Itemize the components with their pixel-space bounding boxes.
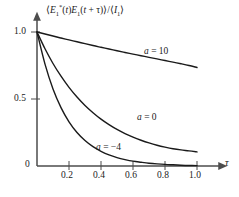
plot-canvas bbox=[0, 0, 239, 197]
x-tick-label-08: 0.8 bbox=[157, 171, 169, 181]
x-axis-label: τ bbox=[225, 158, 229, 168]
x-tick-label-10: 1.0 bbox=[189, 171, 201, 181]
curve-a-0 bbox=[37, 32, 197, 152]
x-tick-label-02: 0.2 bbox=[61, 171, 73, 181]
x-tick-label-04: 0.4 bbox=[93, 171, 105, 181]
curve-annotation-a-minus-4: a = −4 bbox=[96, 143, 121, 153]
y-tick-label-0: 0 bbox=[25, 160, 30, 170]
y-axis-label: ⟨E1*(t)E1(t + τ)⟩/⟨I1⟩ bbox=[46, 4, 124, 18]
curve-annotation-a-10: a = 10 bbox=[144, 47, 168, 57]
figure-container: ⟨E1*(t)E1(t + τ)⟩/⟨I1⟩ τ 1.0 0.5 0 0.2 0… bbox=[0, 0, 239, 197]
curve-annotation-a-0: a = 0 bbox=[137, 113, 157, 123]
y-tick-label-05: 0.5 bbox=[14, 94, 26, 104]
curve-a-10 bbox=[37, 32, 197, 68]
y-tick-label-1: 1.0 bbox=[14, 27, 26, 37]
x-tick-label-06: 0.6 bbox=[125, 171, 137, 181]
